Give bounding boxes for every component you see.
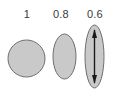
- ellipse-glyph: [8, 40, 45, 77]
- shape-label-0-8: 0.8: [44, 9, 78, 20]
- shape-circle-1: [7, 39, 46, 78]
- shape-label-0-6: 0.6: [78, 9, 112, 20]
- shape-ellipse-0-8: [52, 33, 77, 80]
- shape-label-1: 1: [10, 9, 44, 20]
- shape-ellipse-0-6: [84, 24, 105, 89]
- ellipse-glyph: [53, 34, 76, 79]
- aspect-ratio-figure: 1 0.8 0.6: [0, 0, 119, 100]
